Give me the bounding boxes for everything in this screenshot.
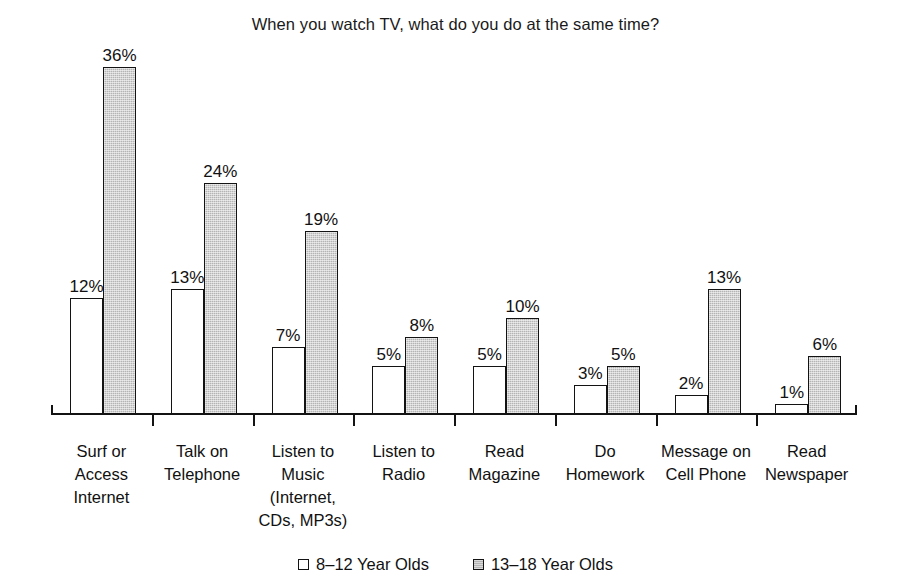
bar[interactable]: 5% xyxy=(473,366,506,414)
bar-value-label: 19% xyxy=(304,210,338,229)
bar[interactable]: 5% xyxy=(607,366,640,414)
axis-tick xyxy=(353,415,355,426)
bar-group: 12%36% xyxy=(51,48,152,414)
category-label: Message on Cell Phone xyxy=(650,440,763,486)
bar-value-label: 1% xyxy=(779,383,804,402)
bar-value-label: 5% xyxy=(376,345,401,364)
category-label: Listen to Radio xyxy=(347,440,460,486)
bar-group: 3%5% xyxy=(555,48,656,414)
bar[interactable]: 24% xyxy=(204,183,237,414)
bar-value-label: 3% xyxy=(578,364,603,383)
bar-value-label: 24% xyxy=(203,162,237,181)
bar[interactable]: 7% xyxy=(272,347,305,414)
category-label: Do Homework xyxy=(549,440,662,486)
bar-value-label: 13% xyxy=(707,268,741,287)
axis-tick xyxy=(253,415,255,426)
axis-tick xyxy=(656,415,658,426)
legend-swatch-dark xyxy=(473,559,484,570)
bar-group: 1%6% xyxy=(756,48,857,414)
bar-group: 13%24% xyxy=(152,48,253,414)
axis-tick xyxy=(152,415,154,426)
category-label: Read Magazine xyxy=(448,440,561,486)
bar[interactable]: 5% xyxy=(372,366,405,414)
legend-swatch-light xyxy=(298,559,309,570)
bar[interactable]: 13% xyxy=(171,289,204,414)
bar-value-label: 5% xyxy=(611,345,636,364)
bar-value-label: 6% xyxy=(812,335,837,354)
bar[interactable]: 10% xyxy=(506,318,539,414)
bar-group: 5%8% xyxy=(353,48,454,414)
axis-tick xyxy=(756,415,758,426)
axis-cap-right xyxy=(855,405,857,415)
legend-label: 13–18 Year Olds xyxy=(491,554,613,574)
legend-item[interactable]: 13–18 Year Olds xyxy=(473,554,613,574)
axis-tick xyxy=(555,415,557,426)
legend-item[interactable]: 8–12 Year Olds xyxy=(298,554,429,574)
bar-value-label: 2% xyxy=(679,374,704,393)
category-label: Read Newspaper xyxy=(750,440,863,486)
bar[interactable]: 6% xyxy=(808,356,841,414)
chart-page: When you watch TV, what do you do at the… xyxy=(0,0,911,583)
bar-value-label: 36% xyxy=(102,46,136,65)
axis-cap-left xyxy=(51,405,53,415)
chart-legend: 8–12 Year Olds13–18 Year Olds xyxy=(0,554,911,574)
bar-group: 2%13% xyxy=(656,48,757,414)
bar-group: 5%10% xyxy=(454,48,555,414)
bar[interactable]: 2% xyxy=(675,395,708,414)
bar[interactable]: 13% xyxy=(708,289,741,414)
category-label: Listen to Music (Internet, CDs, MP3s) xyxy=(247,440,360,532)
bar[interactable]: 3% xyxy=(574,385,607,414)
bar-value-label: 13% xyxy=(170,268,204,287)
bar[interactable]: 36% xyxy=(103,67,136,414)
bar-value-label: 10% xyxy=(505,297,539,316)
bar[interactable]: 12% xyxy=(70,298,103,414)
bar-value-label: 8% xyxy=(409,316,434,335)
bar-value-label: 12% xyxy=(69,277,103,296)
chart-title: When you watch TV, what do you do at the… xyxy=(0,14,911,34)
bar-value-label: 7% xyxy=(276,326,301,345)
bar-group: 7%19% xyxy=(253,48,354,414)
bar[interactable]: 8% xyxy=(405,337,438,414)
axis-tick xyxy=(454,415,456,426)
legend-label: 8–12 Year Olds xyxy=(316,554,429,574)
plot-area: 12%36%13%24%7%19%5%8%5%10%3%5%2%13%1%6% xyxy=(51,48,857,414)
category-label: Talk on Telephone xyxy=(146,440,259,486)
bar[interactable]: 19% xyxy=(305,231,338,414)
bar-value-label: 5% xyxy=(477,345,502,364)
category-label: Surf or Access Internet xyxy=(45,440,158,509)
